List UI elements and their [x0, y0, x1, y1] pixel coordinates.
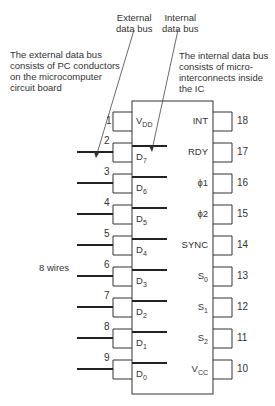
pin-number-left-2: 3: [104, 166, 110, 177]
pin-number-left-5: 6: [104, 259, 110, 270]
pin-number-right-5: 13: [237, 270, 248, 281]
internal-bus-label-1: Internal: [162, 12, 198, 23]
pin-number-left-6: 7: [104, 290, 110, 301]
pin-signal-left-3: D5: [136, 213, 147, 226]
pin-number-left-8: 9: [104, 352, 110, 363]
internal-bus-note: The internal data bus consists of micro-…: [179, 50, 268, 94]
external-bus-label-1: External: [116, 12, 152, 23]
pin-number-left-3: 4: [104, 197, 110, 208]
pin-signal-right-2: ϕ1: [197, 177, 208, 188]
pin-signal-right-3: ϕ2: [197, 208, 208, 219]
pin-number-right-7: 11: [237, 332, 247, 343]
pin-signal-right-5: S0: [198, 270, 208, 283]
pin-number-right-2: 16: [237, 177, 248, 188]
pin-number-left-0: 1: [106, 115, 112, 126]
pin-signal-right-6: S1: [198, 301, 208, 314]
pin-number-right-8: 10: [237, 363, 248, 374]
pin-signal-left-2: D6: [136, 182, 147, 195]
pin-signal-left-6: D2: [136, 306, 147, 319]
pin-signal-left-4: D4: [136, 244, 147, 257]
pin-signal-left-5: D3: [136, 275, 147, 288]
pin-number-left-4: 5: [104, 228, 110, 239]
internal-bus-leader: [152, 30, 178, 150]
pin-signal-right-7: S2: [198, 332, 208, 345]
pin-signal-right-4: SYNC: [182, 239, 208, 250]
pin-signal-left-8: D0: [136, 368, 147, 381]
internal-bus-label-2: data bus: [162, 23, 198, 34]
pin-signal-left-1: D7: [136, 151, 147, 164]
pin-number-right-1: 17: [237, 146, 248, 157]
pin-signal-left-0: VDD: [136, 115, 152, 128]
external-bus-label-2: data bus: [116, 23, 152, 34]
pin-signal-left-7: D1: [136, 337, 147, 350]
pin-signal-right-8: VCC: [192, 363, 208, 376]
pin-number-left-7: 8: [104, 321, 110, 332]
pin-signal-right-0: INT: [193, 115, 208, 126]
wires-label: 8 wires: [39, 262, 69, 273]
pin-number-right-3: 15: [237, 208, 248, 219]
pin-number-right-0: 18: [237, 115, 248, 126]
pin-number-left-1: 2: [104, 135, 110, 146]
pins: [77, 112, 232, 379]
pin-number-right-4: 14: [237, 239, 248, 250]
pin-signal-right-1: RDY: [188, 146, 208, 157]
pin-number-right-6: 12: [237, 301, 248, 312]
external-bus-note: The external data bus consists of PC con…: [10, 49, 120, 93]
